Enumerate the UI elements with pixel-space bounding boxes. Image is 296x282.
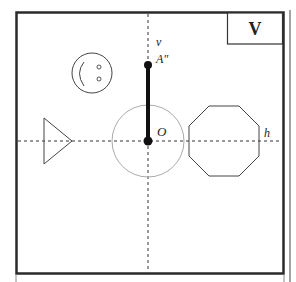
point-A-label: A″	[155, 52, 169, 66]
vertical-axis-label: v	[156, 35, 162, 49]
origin-label: O	[157, 124, 167, 139]
panel-label: V	[249, 19, 262, 39]
horizontal-axis-label: h	[264, 126, 270, 140]
point-O	[144, 137, 153, 146]
diagram-canvas: V v A″ O h	[0, 0, 296, 282]
point-A	[144, 61, 152, 69]
